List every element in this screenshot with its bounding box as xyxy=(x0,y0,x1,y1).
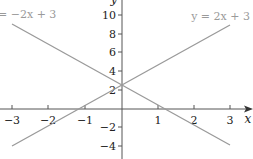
equation-label-increasing: y = 2x + 3 xyxy=(190,10,250,23)
x-tick-label: −2 xyxy=(40,114,56,127)
x-ticks xyxy=(12,105,230,109)
line-y-equals-2x-plus-3 xyxy=(12,25,230,146)
y-tick-label: −4 xyxy=(100,140,116,153)
y-ticks xyxy=(118,15,122,146)
x-tick-label: 1 xyxy=(155,114,162,127)
x-tick-label: −3 xyxy=(4,114,20,127)
equation-label-decreasing: = −2x + 3 xyxy=(0,8,56,21)
y-tick-label: 10 xyxy=(102,9,116,22)
x-tick-label: −1 xyxy=(77,114,93,127)
linear-functions-chart: −3 −2 −1 1 2 3 10 8 6 4 2 −2 −4 x y y = … xyxy=(0,0,253,159)
y-tick-label: 6 xyxy=(109,46,116,59)
y-tick-label: −2 xyxy=(100,121,116,134)
y-axis-label: y xyxy=(110,0,118,6)
y-tick-label: 4 xyxy=(109,65,116,78)
x-tick-label: 3 xyxy=(227,114,234,127)
x-axis-label: x xyxy=(245,112,252,126)
y-tick-label: 8 xyxy=(109,28,116,41)
